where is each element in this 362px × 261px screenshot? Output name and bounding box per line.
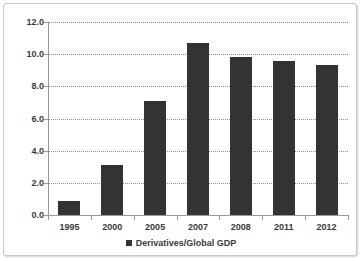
x-axis-tick (177, 216, 178, 220)
bar[interactable] (187, 43, 209, 215)
bar[interactable] (58, 201, 80, 215)
bar[interactable] (316, 65, 338, 215)
x-axis-tick (91, 216, 92, 220)
bar-slot (262, 22, 305, 215)
x-axis-tick (219, 216, 220, 220)
y-axis-tick-label: 0.0 (10, 211, 44, 220)
x-axis-tick-label: 2011 (262, 222, 305, 233)
x-axis-tick (134, 216, 135, 220)
legend-swatch-icon (126, 240, 132, 246)
x-axis-tick (262, 216, 263, 220)
x-axis-tick (305, 216, 306, 220)
x-axis-labels: 1995200020052007200820112012 (48, 222, 348, 236)
chart-legend: Derivatives/Global GDP (4, 238, 358, 248)
plot-area (48, 22, 348, 215)
y-axis-tick-label: 6.0 (10, 115, 44, 124)
bar-slot (91, 22, 134, 215)
y-axis-tick-label: 4.0 (10, 147, 44, 156)
bar[interactable] (101, 165, 123, 215)
x-axis-tick-label: 1995 (48, 222, 91, 233)
chart-frame: 12.010.08.06.04.02.00.0 1995200020052007… (3, 3, 357, 256)
y-axis-tick-label: 8.0 (10, 82, 44, 91)
x-axis-tick (48, 216, 49, 220)
bar-slot (177, 22, 220, 215)
y-axis-tick-label: 12.0 (10, 18, 44, 27)
y-axis-labels: 12.010.08.06.04.02.00.0 (4, 22, 44, 215)
x-axis-ticks (48, 216, 349, 221)
y-axis-tick-label: 2.0 (10, 179, 44, 188)
y-axis-tick-label: 10.0 (10, 50, 44, 59)
legend-label: Derivatives/Global GDP (136, 238, 237, 248)
bar-slot (305, 22, 348, 215)
bar[interactable] (273, 61, 295, 215)
x-axis-tick (348, 216, 349, 220)
bar-slot (48, 22, 91, 215)
bar[interactable] (230, 57, 252, 215)
x-axis-tick-label: 2005 (134, 222, 177, 233)
bar-slot (134, 22, 177, 215)
x-axis-tick-label: 2000 (91, 222, 134, 233)
x-axis-tick-label: 2012 (305, 222, 348, 233)
bar[interactable] (144, 101, 166, 215)
bar-slot (219, 22, 262, 215)
x-axis-tick-label: 2007 (177, 222, 220, 233)
x-axis-tick-label: 2008 (219, 222, 262, 233)
